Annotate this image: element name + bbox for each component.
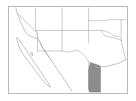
- locator-map-figure: Outline map showing U.S. states of Calif…: [0, 0, 136, 101]
- map-frame: [8, 6, 128, 94]
- map-canvas: [9, 7, 127, 93]
- highlighted-region-tamaulipas[interactable]: [89, 63, 101, 92]
